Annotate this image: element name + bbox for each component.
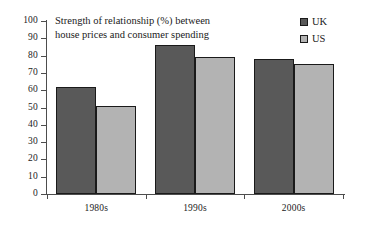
y-axis-tick [41, 21, 46, 22]
bar-uk-1980s [56, 87, 96, 194]
y-axis-tick [41, 73, 46, 74]
y-axis-tick-label: 40 [12, 120, 38, 130]
y-axis-tick [41, 125, 46, 126]
bar-us-1980s [96, 106, 136, 194]
y-axis-tick-label: 70 [12, 68, 38, 78]
y-axis-tick [41, 56, 46, 57]
y-axis-tick-label: 90 [12, 33, 38, 43]
plot-area [47, 21, 343, 194]
x-axis-group-label-1980s: 1980s [53, 203, 139, 213]
y-axis-tick-label: 10 [12, 172, 38, 182]
y-axis-tick-label: 60 [12, 85, 38, 95]
bar-uk-2000s [254, 59, 294, 194]
y-axis-tick [41, 38, 46, 39]
x-axis-tick [146, 194, 147, 199]
x-axis-tick [47, 194, 48, 199]
y-axis-tick-label: 0 [12, 189, 38, 199]
y-axis-tick-label: 30 [12, 137, 38, 147]
bar-uk-1990s [155, 45, 195, 194]
x-axis-tick [343, 194, 344, 199]
y-axis-tick [41, 90, 46, 91]
bar-us-1990s [195, 57, 235, 194]
y-axis-tick [41, 108, 46, 109]
x-axis-group-label-2000s: 2000s [251, 203, 337, 213]
x-axis-line [46, 194, 345, 195]
y-axis-tick-label: 20 [12, 154, 38, 164]
bar-chart: Strength of relationship (%) between hou… [0, 0, 365, 240]
y-axis-tick [41, 142, 46, 143]
x-axis-group-label-1990s: 1990s [152, 203, 238, 213]
y-axis-tick [41, 194, 46, 195]
x-axis-tick [244, 194, 245, 199]
y-axis-tick-label: 100 [12, 16, 38, 26]
y-axis-tick [41, 177, 46, 178]
bar-us-2000s [294, 64, 334, 194]
y-axis-tick-label: 50 [12, 103, 38, 113]
y-axis-tick [41, 159, 46, 160]
y-axis-tick-label: 80 [12, 51, 38, 61]
